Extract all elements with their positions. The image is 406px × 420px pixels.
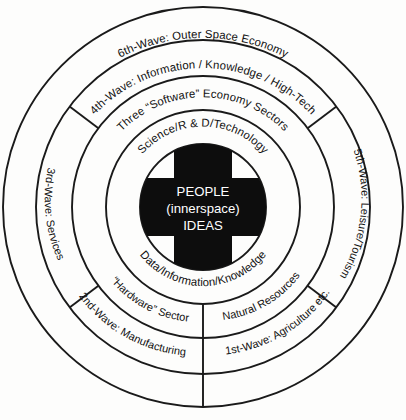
center-label-innerspace: (innerspace) xyxy=(166,201,239,216)
center-label-ideas: IDEAS xyxy=(183,218,223,233)
diagram-canvas: 6th-Wave: Outer Space Economy 4th-Wave: … xyxy=(0,0,406,420)
label-5th-wave: 5th-Wave: Leisure/Tourism xyxy=(338,147,372,281)
label-3rd-wave: 3rd-Wave: Services xyxy=(43,167,68,262)
wave-economy-diagram: 6th-Wave: Outer Space Economy 4th-Wave: … xyxy=(0,0,406,420)
label-4th-wave: 4th-Wave: Information / Knowledge / High… xyxy=(87,58,318,116)
center-label-people: PEOPLE xyxy=(177,184,230,199)
label-6th-wave: 6th-Wave: Outer Space Economy xyxy=(116,28,291,60)
